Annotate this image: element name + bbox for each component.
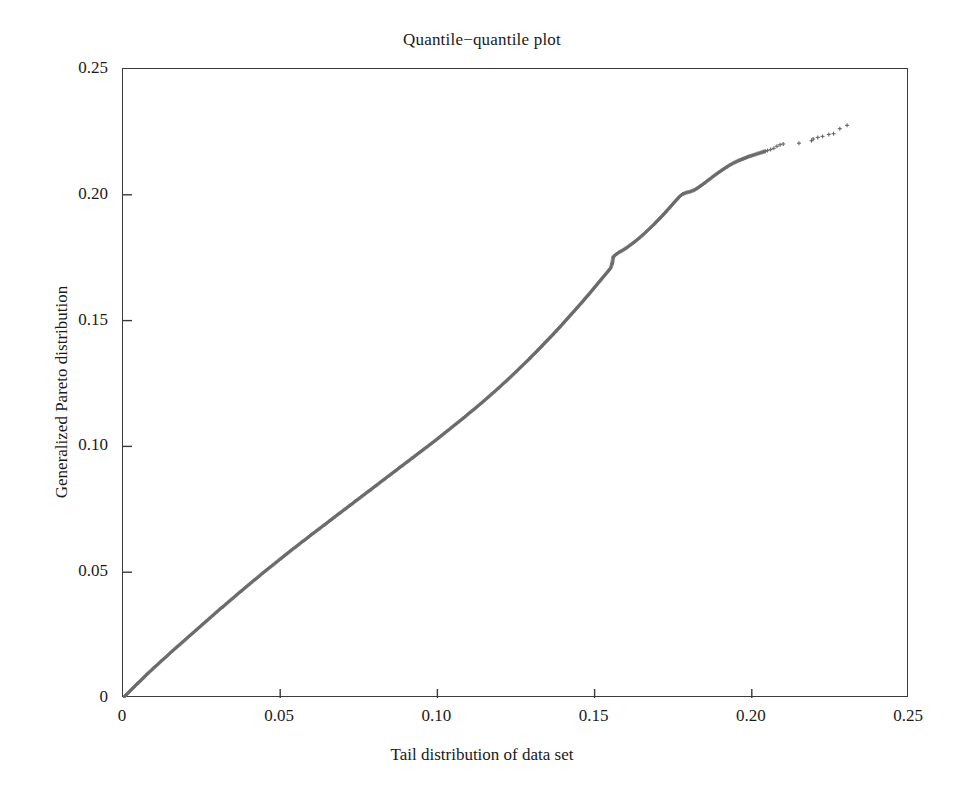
qq-plot-figure: Quantile−quantile plot 00.050.100.150.20… [0,0,964,798]
plot-canvas [123,69,909,698]
x-tick-label: 0.10 [391,706,481,726]
x-tick-label: 0.05 [234,706,324,726]
y-axis-label: Generalized Pareto distribution [52,142,72,642]
tick-marks [123,195,752,698]
x-tick-label: 0.20 [706,706,796,726]
data-points [123,123,849,698]
chart-title: Quantile−quantile plot [0,30,964,50]
y-tick-label: 0 [34,687,108,707]
x-tick-label: 0.25 [863,706,953,726]
x-axis-label: Tail distribution of data set [0,745,964,765]
y-tick-label: 0.25 [34,58,108,78]
x-tick-label: 0.15 [549,706,639,726]
plot-area [122,68,908,697]
x-tick-label: 0 [77,706,167,726]
x-axis-tick-labels: 00.050.100.150.200.25 [122,706,908,732]
